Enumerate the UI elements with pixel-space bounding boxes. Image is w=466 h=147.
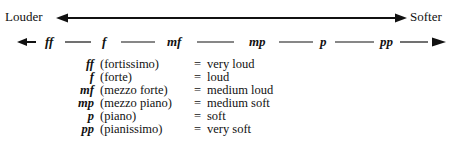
dynamic-ff: ff [45, 35, 53, 49]
main-double-arrow [56, 14, 407, 23]
legend-row: mp (mezzo piano) = medium soft [0, 97, 466, 110]
legend-row: pp (pianissimo) = very soft [0, 123, 466, 136]
dynamic-p: p [320, 35, 327, 49]
legend-meaning: very soft [207, 123, 251, 136]
legend-symbol: pp [82, 123, 95, 136]
legend-row: ff (fortissimo) = very loud [0, 58, 466, 71]
dynamic-mp: mp [249, 35, 266, 49]
dynamic-mf: mf [167, 35, 181, 49]
louder-label: Louder [5, 10, 43, 24]
legend-equals: = [194, 123, 201, 136]
dynamic-pp: pp [380, 35, 393, 49]
softer-label: Softer [410, 10, 442, 24]
dynamic-f: f [102, 35, 106, 49]
legend-term: (pianissimo) [100, 123, 163, 136]
